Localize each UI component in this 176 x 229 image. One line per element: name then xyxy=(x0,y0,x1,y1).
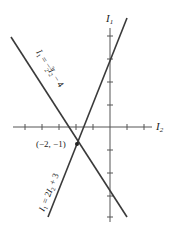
line-2-increasing xyxy=(48,18,127,217)
intersection-point xyxy=(75,142,79,146)
line-1-label: I1 = −32I2 − 4 xyxy=(32,47,66,91)
intersection-label: (−2, −1) xyxy=(36,139,66,149)
svg-text:I1 = −32I2 − 4: I1 = −32I2 − 4 xyxy=(32,47,66,91)
horizontal-axis-label: I2 xyxy=(155,120,164,134)
diagram-canvas: I1 I2 (−2, −1) I1 = −32I2 − 4 I1 = 2I2 +… xyxy=(0,0,176,229)
vertical-axis-label: I1 xyxy=(105,12,113,26)
